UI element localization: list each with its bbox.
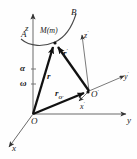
vector-label-r-prime: r′: [63, 48, 68, 58]
axis-label-y-prime: y′: [124, 71, 129, 81]
origin-label-O-prime-mark: ′: [98, 89, 99, 94]
origin-label-O: O: [31, 117, 38, 126]
curve-label-A: A: [21, 30, 27, 39]
axis-label-x: x: [12, 144, 16, 153]
point-M-marker: [53, 41, 56, 44]
angular-velocity-label-omega: ω: [20, 79, 27, 88]
vector-label-r-Oprime-subscript: O′: [59, 95, 64, 100]
axis-label-x-prime: x′: [80, 101, 85, 111]
figure-canvas: z y x z′ y′ x′ O O′ M(m) A B r r′ rO′ α …: [0, 0, 137, 159]
curve-label-B: B: [71, 8, 77, 17]
point-label-M: M(m): [40, 27, 58, 35]
origin-label-O-prime: O′: [91, 89, 99, 99]
angular-acceleration-label-alpha: α: [20, 64, 25, 73]
vector-label-r-prime-mark: ′: [67, 48, 68, 53]
axis-label-z-prime: z′: [84, 30, 88, 40]
axis-label-x-prime-mark: ′: [84, 101, 85, 106]
moving-frame-axes: [79, 35, 124, 101]
vector-label-r: r: [47, 72, 51, 81]
axis-label-y-prime-mark: ′: [128, 71, 129, 76]
vector-label-r-Oprime: rO′: [55, 89, 64, 100]
axis-label-z-prime-mark: ′: [87, 30, 88, 35]
point-Oprime-marker: [86, 90, 89, 93]
axis-label-y: y: [127, 116, 131, 125]
